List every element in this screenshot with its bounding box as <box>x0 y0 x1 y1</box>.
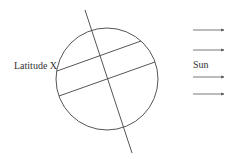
latitude-line-lower <box>59 62 155 96</box>
latitude-line-upper <box>57 41 141 71</box>
latitude-x-label: Latitude X <box>14 60 58 71</box>
sun-label: Sun <box>193 59 209 70</box>
earth-sun-diagram: Latitude X Sun <box>0 0 232 159</box>
